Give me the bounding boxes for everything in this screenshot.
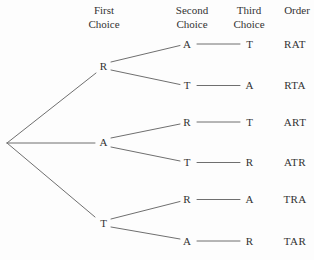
- order-label-row-1: RAT: [284, 38, 306, 50]
- header-first-choice-line2: Choice: [88, 18, 119, 30]
- second-choice-node-row-5: R: [183, 193, 191, 205]
- third-choice-node-row-3: T: [246, 116, 253, 128]
- first-choice-nodes: R A T: [100, 60, 108, 229]
- first-choice-node-a: A: [100, 136, 108, 148]
- order-label-row-3: ART: [284, 116, 307, 128]
- header-order-line1: Order: [284, 4, 310, 16]
- branch-line-a-to-t: [111, 147, 180, 161]
- third-choice-node-row-4: R: [246, 156, 254, 168]
- third-choice-node-row-1: T: [246, 38, 253, 50]
- third-choice-node-row-2: A: [246, 79, 254, 91]
- second-choice-node-row-3: R: [183, 116, 191, 128]
- order-label-row-4: ATR: [284, 156, 306, 168]
- order-label-row-5: TRA: [283, 193, 306, 205]
- header-third-choice-line2: Choice: [233, 18, 264, 30]
- column-headers: First Choice Second Choice Third Choice …: [88, 4, 310, 30]
- third-choice-node-row-6: R: [246, 235, 254, 247]
- header-first-choice-line1: First: [94, 4, 114, 16]
- first-choice-node-t: T: [100, 217, 107, 229]
- third-choice-nodes: T A T R A R: [246, 38, 254, 247]
- branch-line-t-to-a: [111, 227, 180, 239]
- order-label-row-6: TAR: [284, 235, 307, 247]
- branch-line-t-to-r: [111, 202, 180, 220]
- second-choice-node-row-2: T: [184, 79, 191, 91]
- first-choice-node-r: R: [100, 60, 108, 72]
- second-choice-node-row-1: A: [183, 38, 191, 50]
- second-choice-nodes: A T R T R A: [183, 38, 191, 247]
- tree-branch-lines: [7, 44, 240, 241]
- order-labels: RAT RTA ART ATR TRA TAR: [283, 38, 306, 247]
- branch-line-r-to-a: [111, 46, 180, 63]
- branch-line-r-to-t: [111, 70, 180, 85]
- branch-line-root-to-r: [7, 73, 96, 143]
- third-choice-node-row-5: A: [246, 193, 254, 205]
- header-third-choice-line1: Third: [237, 4, 262, 16]
- order-label-row-2: RTA: [284, 79, 306, 91]
- second-choice-node-row-6: A: [183, 235, 191, 247]
- branch-line-root-to-t: [7, 143, 95, 217]
- second-choice-node-row-4: T: [184, 156, 191, 168]
- header-second-choice-line1: Second: [176, 4, 209, 16]
- branch-line-a-to-r: [111, 124, 180, 138]
- header-second-choice-line2: Choice: [176, 18, 207, 30]
- tree-diagram: First Choice Second Choice Third Choice …: [0, 0, 314, 260]
